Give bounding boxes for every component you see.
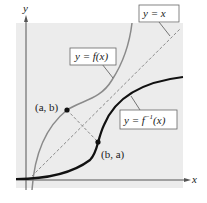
inverse-function-diagram: y x (a, b) (b, a) y = x y = f(x) y = f−1… — [0, 0, 207, 203]
x-axis-label: x — [191, 173, 197, 185]
inverse-callout-label: y = f−1(x) — [123, 113, 166, 127]
function-callout-label: y = f(x) — [74, 50, 108, 63]
point-ab-marker — [64, 107, 69, 112]
point-ab-label: (a, b) — [35, 101, 59, 114]
identity-callout-label: y = x — [142, 7, 166, 19]
y-axis-label: y — [22, 2, 28, 14]
point-ba-marker — [95, 139, 100, 144]
x-axis-arrow-icon — [184, 178, 191, 182]
y-axis-arrow-icon — [24, 15, 28, 22]
point-ba-label: (b, a) — [101, 148, 125, 161]
